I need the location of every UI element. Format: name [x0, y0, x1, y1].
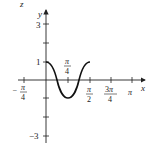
svg-text:π: π: [65, 57, 70, 66]
svg-text:π: π: [87, 85, 92, 94]
corner-label: z: [19, 0, 24, 9]
svg-text:3π: 3π: [105, 85, 114, 94]
svg-text:−: −: [12, 86, 17, 95]
svg-text:4: 4: [65, 67, 69, 76]
y-tick-label-3: 3: [36, 20, 41, 30]
svg-text:4: 4: [21, 93, 25, 102]
y-tick-label-neg3: −3: [29, 131, 39, 141]
svg-text:2: 2: [87, 95, 91, 104]
x-tick-label-neg-pi-4: − π 4: [12, 83, 27, 102]
svg-text:4: 4: [108, 95, 112, 104]
svg-text:π: π: [21, 83, 26, 92]
x-tick-label-pi-4: π 4: [64, 57, 71, 76]
x-tick-label-pi: π: [128, 88, 133, 97]
chart: z y x 3 1 −3 − π 4 π 4 π 2 3: [0, 0, 151, 149]
x-tick-label-3pi-4: 3π 4: [104, 85, 117, 104]
x-tick-label-pi-2: π 2: [86, 85, 93, 104]
x-axis-label: x: [140, 83, 145, 93]
y-axis-label: y: [37, 9, 42, 19]
y-tick-label-1: 1: [36, 57, 41, 67]
